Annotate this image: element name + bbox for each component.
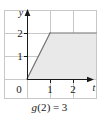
caption-equals-sign: = [53,101,59,113]
coordinate-plot: 2 1 0 1 2 y t [0,0,99,100]
x-axis-label: t [93,82,96,93]
x-tick-label-1: 1 [47,83,53,95]
caption-result-value: 3 [62,101,68,113]
figure-caption: g(2) = 3 [0,101,99,113]
y-tick-label-1: 1 [17,50,23,62]
x-tick-label-2: 2 [70,83,76,95]
figure-container: 2 1 0 1 2 y t g(2) = 3 [0,0,99,125]
plot-area: 2 1 0 1 2 y t [0,0,99,100]
x-tick-label-0: 0 [16,83,22,95]
caption-argument: (2) [37,101,50,113]
y-tick-label-2: 2 [17,27,23,39]
y-axis-label: y [18,7,24,18]
